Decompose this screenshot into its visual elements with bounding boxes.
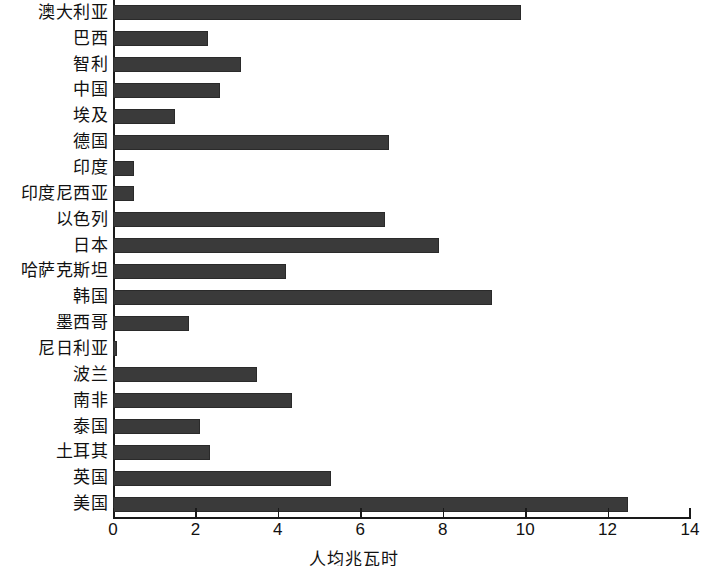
category-label: 德国: [0, 133, 108, 151]
x-axis-title: 人均兆瓦时: [0, 545, 708, 566]
bar: [113, 471, 331, 486]
category-label: 日本: [0, 237, 108, 255]
bar: [113, 393, 292, 408]
category-label: 尼日利亚: [0, 340, 108, 358]
category-label-text: 埃及: [73, 106, 108, 125]
x-axis-tick-label: 4: [273, 521, 282, 538]
x-axis-tick-label: 14: [681, 521, 700, 538]
y-axis-line: [113, 0, 115, 519]
category-label: 以色列: [0, 211, 108, 229]
chart-page: 澳大利亚巴西智利中国埃及德国印度印度尼西亚以色列日本哈萨克斯坦韩国墨西哥尼日利亚…: [0, 0, 708, 566]
bar: [113, 135, 389, 150]
category-label: 印度: [0, 159, 108, 177]
category-label: 波兰: [0, 366, 108, 384]
category-label-text: 泰国: [73, 417, 108, 436]
category-label: 巴西: [0, 30, 108, 48]
x-axis-tick: [608, 508, 609, 518]
category-label: 智利: [0, 56, 108, 74]
bar: [113, 341, 117, 356]
bar: [113, 5, 521, 20]
category-label: 哈萨克斯坦: [0, 262, 108, 280]
category-label: 南非: [0, 392, 108, 410]
x-axis-tick: [278, 508, 279, 518]
category-label: 澳大利亚: [0, 4, 108, 22]
category-label-text: 澳大利亚: [38, 3, 108, 22]
bar: [113, 161, 134, 176]
category-label-text: 哈萨克斯坦: [21, 261, 109, 280]
category-label-text: 印度: [73, 158, 108, 177]
category-label: 韩国: [0, 288, 108, 306]
x-axis-tick-label: 12: [598, 521, 617, 538]
x-axis-tick: [525, 508, 526, 518]
bar: [113, 264, 286, 279]
bar: [113, 290, 492, 305]
bar: [113, 212, 385, 227]
category-label-text: 尼日利亚: [38, 339, 108, 358]
bar: [113, 497, 628, 512]
category-label-text: 日本: [73, 236, 108, 255]
category-label-text: 以色列: [56, 210, 109, 229]
x-axis-line: [113, 517, 691, 519]
category-label-text: 印度尼西亚: [21, 184, 109, 203]
bar: [113, 186, 134, 201]
x-axis-tick: [690, 508, 691, 518]
x-axis-tick-label: 6: [356, 521, 365, 538]
category-label: 墨西哥: [0, 314, 108, 332]
category-label: 中国: [0, 81, 108, 99]
category-label-text: 土耳其: [56, 442, 109, 461]
x-axis-tick-label: 8: [438, 521, 447, 538]
x-axis-tick: [113, 508, 114, 518]
x-axis-tick: [195, 508, 196, 518]
x-axis-tick: [443, 508, 444, 518]
x-axis-tick: [360, 508, 361, 518]
category-label-text: 美国: [73, 494, 108, 513]
bar: [113, 367, 257, 382]
category-label: 印度尼西亚: [0, 185, 108, 203]
x-axis-tick-label: 10: [516, 521, 535, 538]
category-label-text: 英国: [73, 468, 108, 487]
category-label: 泰国: [0, 418, 108, 436]
category-label-text: 智利: [73, 55, 108, 74]
category-label-text: 韩国: [73, 287, 108, 306]
category-label: 英国: [0, 469, 108, 487]
category-label: 埃及: [0, 107, 108, 125]
bar: [113, 419, 200, 434]
bar: [113, 57, 241, 72]
bar: [113, 238, 439, 253]
category-label-text: 中国: [73, 80, 108, 99]
category-label-text: 墨西哥: [56, 313, 109, 332]
category-label-text: 南非: [73, 391, 108, 410]
bar: [113, 445, 210, 460]
bar: [113, 83, 220, 98]
x-axis-tick-label: 2: [191, 521, 200, 538]
category-label-text: 波兰: [73, 365, 108, 384]
bar: [113, 31, 208, 46]
category-label: 土耳其: [0, 443, 108, 461]
x-axis-tick-label: 0: [108, 521, 117, 538]
category-label: 美国: [0, 495, 108, 513]
category-label-text: 德国: [73, 132, 108, 151]
category-label-text: 巴西: [73, 29, 108, 48]
bar: [113, 316, 189, 331]
bar: [113, 109, 175, 124]
